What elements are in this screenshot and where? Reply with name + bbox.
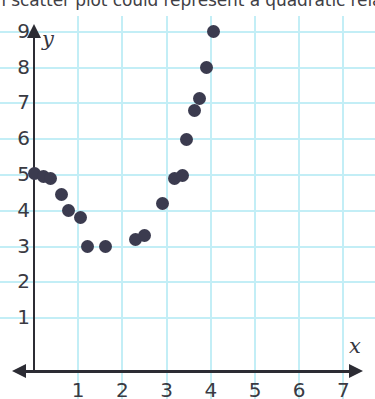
data-point xyxy=(176,169,189,182)
x-axis-arrowhead-right-icon xyxy=(349,364,363,378)
x-tick-label: 6 xyxy=(287,380,311,399)
gridline-horizontal xyxy=(0,67,375,69)
x-tick-label: 4 xyxy=(199,380,223,399)
gridline-vertical xyxy=(342,16,344,399)
data-point xyxy=(81,240,94,253)
data-point xyxy=(180,133,193,146)
y-tick-label: 1 xyxy=(6,307,30,327)
gridline-vertical xyxy=(254,16,256,399)
y-tick-label: 7 xyxy=(6,92,30,112)
gridline-vertical xyxy=(121,16,123,399)
gridline-horizontal xyxy=(0,102,375,104)
data-point xyxy=(193,92,206,105)
x-tick-label: 1 xyxy=(66,380,90,399)
data-point xyxy=(156,197,169,210)
y-tick-label: 4 xyxy=(6,200,30,220)
x-axis-line xyxy=(22,370,352,373)
scatter-plot: y x 123456789 1234567 xyxy=(0,16,375,399)
data-point xyxy=(200,61,213,74)
x-tick-label: 3 xyxy=(155,380,179,399)
x-tick-label: 2 xyxy=(110,380,134,399)
x-tick-label: 5 xyxy=(243,380,267,399)
data-point xyxy=(188,104,201,117)
data-point xyxy=(207,25,220,38)
grid-layer xyxy=(0,16,375,399)
y-tick-label: 6 xyxy=(6,128,30,148)
x-axis-label: x xyxy=(349,334,361,358)
y-axis-label: y xyxy=(42,27,54,51)
y-axis-line xyxy=(33,36,35,372)
y-tick-label: 9 xyxy=(6,21,30,41)
gridline-vertical xyxy=(77,16,79,399)
gridline-horizontal xyxy=(0,317,375,319)
prompt-text: Which scatter plot could represent a qua… xyxy=(0,0,375,16)
y-tick-label: 2 xyxy=(6,271,30,291)
y-tick-label: 3 xyxy=(6,236,30,256)
gridline-horizontal xyxy=(0,246,375,248)
data-point xyxy=(55,188,68,201)
gridline-vertical xyxy=(298,16,300,399)
y-tick-label: 8 xyxy=(6,57,30,77)
gridline-vertical xyxy=(210,16,212,399)
gridline-horizontal xyxy=(0,31,375,33)
y-tick-label: 5 xyxy=(6,164,30,184)
gridline-horizontal xyxy=(0,281,375,283)
gridline-horizontal xyxy=(0,210,375,212)
x-axis-arrowhead-left-icon xyxy=(12,364,26,378)
x-tick-label: 7 xyxy=(331,380,355,399)
